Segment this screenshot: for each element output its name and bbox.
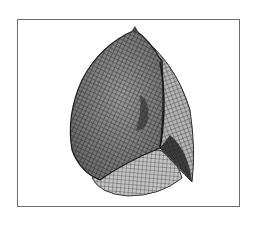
mesh-figure	[0, 0, 258, 228]
mesh-apex	[131, 26, 139, 33]
